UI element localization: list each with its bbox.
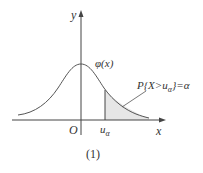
u-alpha-label: uα — [100, 124, 110, 138]
origin-label: O — [69, 124, 78, 136]
y-axis-arrow-icon — [79, 10, 84, 17]
x-axis-arrow-icon — [159, 118, 166, 123]
probability-label: P{X>uα}=α — [137, 80, 190, 94]
figure-caption: (1) — [86, 148, 100, 160]
tail-area — [105, 91, 149, 120]
x-axis-label: x — [156, 125, 161, 137]
y-axis-label: y — [71, 9, 76, 21]
curve-label: φ(x) — [95, 58, 113, 69]
